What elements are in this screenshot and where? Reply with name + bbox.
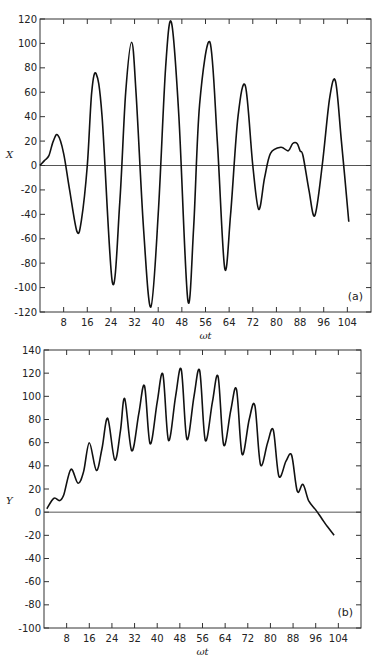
y-tick-label: 80 bbox=[24, 62, 37, 73]
x-tick-label: 40 bbox=[151, 633, 164, 644]
panel-label: (b) bbox=[337, 606, 353, 619]
y-tick-label: -40 bbox=[21, 209, 37, 220]
x-tick-label: 104 bbox=[338, 317, 357, 328]
y-axis-label: X bbox=[5, 149, 14, 160]
y-tick-label: 40 bbox=[28, 460, 41, 471]
y-tick-label: -60 bbox=[21, 233, 37, 244]
x-tick-label: 32 bbox=[128, 317, 141, 328]
y-tick-label: 20 bbox=[28, 484, 41, 495]
y-tick-label: 60 bbox=[28, 437, 41, 448]
x-tick-label: 104 bbox=[329, 633, 348, 644]
x-tick-label: 8 bbox=[63, 633, 69, 644]
x-tick-label: 24 bbox=[106, 633, 119, 644]
y-tick-label: -80 bbox=[25, 599, 41, 610]
data-curve bbox=[40, 21, 349, 307]
y-tick-label: 0 bbox=[31, 160, 37, 171]
y-tick-label: 120 bbox=[18, 14, 37, 25]
y-tick-label: 80 bbox=[28, 414, 41, 425]
y-tick-label: 100 bbox=[22, 391, 41, 402]
x-tick-label: 88 bbox=[287, 633, 300, 644]
x-tick-label: 56 bbox=[199, 317, 212, 328]
x-tick-label: 56 bbox=[196, 633, 209, 644]
x-tick-label: 8 bbox=[60, 317, 66, 328]
x-tick-label: 64 bbox=[223, 317, 236, 328]
chart-panel-a: 81624324048566472808896104-120-100-80-60… bbox=[5, 14, 371, 342]
y-tick-label: -40 bbox=[25, 553, 41, 564]
x-tick-label: 64 bbox=[219, 633, 232, 644]
y-tick-label: -20 bbox=[21, 184, 37, 195]
plot-frame bbox=[44, 350, 361, 628]
y-tick-label: -80 bbox=[21, 258, 37, 269]
x-tick-label: 80 bbox=[270, 317, 283, 328]
y-tick-label: -100 bbox=[14, 282, 37, 293]
y-tick-label: -20 bbox=[25, 530, 41, 541]
y-tick-label: 20 bbox=[24, 136, 37, 147]
x-tick-label: 48 bbox=[175, 317, 188, 328]
x-tick-label: 96 bbox=[309, 633, 322, 644]
y-tick-label: -60 bbox=[25, 576, 41, 587]
y-tick-label: -100 bbox=[18, 623, 41, 634]
x-tick-label: 96 bbox=[317, 317, 330, 328]
x-tick-label: 16 bbox=[81, 317, 94, 328]
x-tick-label: 24 bbox=[105, 317, 118, 328]
y-axis-label: Y bbox=[6, 495, 14, 506]
chart-panel-b: 81624324048566472808896104-100-80-60-40-… bbox=[6, 345, 361, 657]
y-tick-label: -120 bbox=[14, 307, 37, 318]
panel-label: (a) bbox=[348, 290, 363, 303]
y-tick-label: 120 bbox=[22, 368, 41, 379]
y-tick-label: 140 bbox=[22, 345, 41, 356]
y-tick-label: 100 bbox=[18, 38, 37, 49]
x-axis-label: ωt bbox=[199, 330, 212, 341]
x-axis-label: ωt bbox=[196, 646, 209, 657]
y-tick-label: 60 bbox=[24, 87, 37, 98]
x-tick-label: 88 bbox=[294, 317, 307, 328]
y-tick-label: 0 bbox=[35, 507, 41, 518]
x-tick-label: 48 bbox=[173, 633, 186, 644]
figure: 81624324048566472808896104-120-100-80-60… bbox=[0, 0, 383, 657]
x-tick-label: 40 bbox=[152, 317, 165, 328]
data-curve bbox=[47, 368, 334, 535]
x-tick-label: 16 bbox=[83, 633, 96, 644]
x-tick-label: 32 bbox=[128, 633, 141, 644]
x-tick-label: 72 bbox=[246, 317, 259, 328]
y-tick-label: 40 bbox=[24, 111, 37, 122]
x-tick-label: 72 bbox=[241, 633, 254, 644]
x-tick-label: 80 bbox=[264, 633, 277, 644]
